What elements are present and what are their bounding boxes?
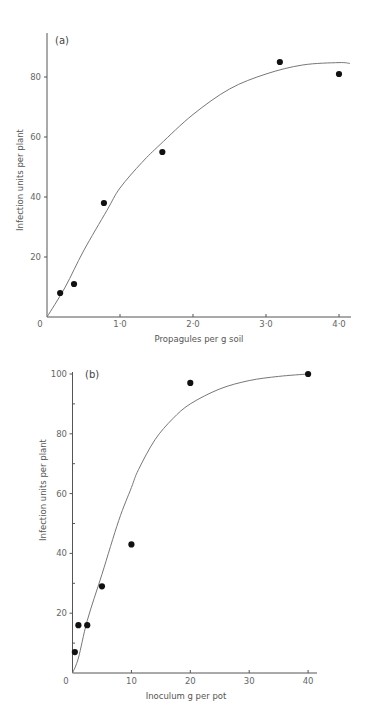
x-tick-label: 10 — [126, 676, 137, 686]
data-points — [57, 59, 342, 296]
x-tick-label: 40 — [303, 676, 314, 686]
x-tick-label: 1·0 — [113, 319, 127, 329]
y-tick-label: 100 — [51, 369, 67, 379]
data-point — [71, 281, 77, 287]
y-ticks: 20406080 — [30, 72, 47, 262]
data-point — [159, 149, 165, 155]
data-point — [84, 622, 90, 628]
y-tick-label: 60 — [56, 489, 67, 499]
y-tick-label: 80 — [30, 72, 41, 82]
x-ticks: 01·02·03·04·0 — [37, 314, 345, 329]
x-tick-label: 3·0 — [259, 319, 273, 329]
data-point — [72, 649, 78, 655]
y-axis-title: Infection units per plant — [15, 128, 25, 231]
data-point — [277, 59, 283, 65]
y-axis-title: Infection units per plant — [38, 438, 48, 541]
y-tick-label: 60 — [30, 132, 41, 142]
x-axis-title: Propagules per g soil — [155, 334, 244, 344]
y-tick-label: 20 — [56, 608, 67, 618]
fitted-curve — [47, 63, 350, 317]
figure: 01·02·03·04·0 20406080 (a) Propagules pe… — [0, 0, 366, 722]
data-point — [305, 371, 311, 377]
data-point — [128, 541, 134, 547]
x-tick-label: 0 — [63, 676, 68, 686]
data-point — [336, 71, 342, 77]
chart-panel-a: 01·02·03·04·0 20406080 (a) Propagules pe… — [15, 33, 351, 344]
fitted-curve — [73, 374, 309, 673]
x-ticks: 010203040 — [63, 670, 313, 686]
y-tick-label: 40 — [56, 548, 67, 558]
x-tick-label: 20 — [185, 676, 196, 686]
data-points — [72, 371, 311, 655]
x-axis-title: Inoculum g per pot — [146, 691, 227, 701]
x-tick-label: 2·0 — [186, 319, 200, 329]
y-tick-label: 40 — [30, 192, 41, 202]
y-tick-label: 20 — [30, 252, 41, 262]
panel-label: (a) — [55, 35, 69, 46]
x-tick-label: 4·0 — [332, 319, 346, 329]
y-ticks: 20406080100 — [51, 369, 75, 643]
data-point — [101, 200, 107, 206]
x-tick-label: 0 — [37, 319, 42, 329]
y-tick-label: 80 — [56, 429, 67, 439]
data-point — [57, 290, 63, 296]
data-point — [187, 380, 193, 386]
data-point — [99, 583, 105, 589]
data-point — [75, 622, 81, 628]
x-tick-label: 30 — [244, 676, 255, 686]
panel-label: (b) — [85, 369, 99, 380]
chart-panel-b: 010203040 20406080100 (b) Inoculum g per… — [38, 369, 317, 701]
